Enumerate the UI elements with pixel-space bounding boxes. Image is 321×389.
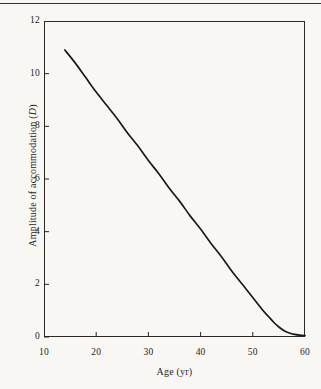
x-axis-title: Age (yr)	[44, 366, 305, 377]
x-axis-title-text: Age (yr)	[157, 366, 193, 377]
x-tick-label-30: 30	[133, 347, 163, 357]
x-tick-label-60: 60	[290, 347, 320, 357]
y-axis-unit-symbol: D	[27, 108, 38, 115]
y-axis-unit-paren: (D)	[27, 104, 38, 118]
x-tick-label-10: 10	[29, 347, 59, 357]
figure-container: 024681012 102030405060 Age (yr) Amplitud…	[0, 0, 321, 389]
x-tick-label-50: 50	[238, 347, 268, 357]
x-tick-label-40: 40	[186, 347, 216, 357]
y-axis-title-text: Amplitude of accommodation	[27, 122, 38, 247]
x-tick-label-20: 20	[81, 347, 111, 357]
y-axis-title: Amplitude of accommodation (D)	[27, 66, 38, 286]
x-axis-tick-labels: 102030405060	[0, 0, 321, 389]
